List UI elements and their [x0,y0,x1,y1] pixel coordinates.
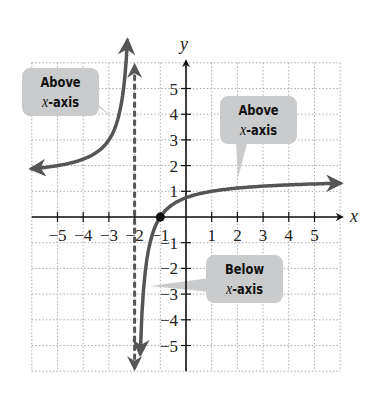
x-intercept-point [156,213,165,222]
callout-left-above-x-axis: Above x-axis [22,68,99,116]
x-tick-label: 4 [285,226,294,245]
x-tick-label: −3 [100,226,118,245]
y-tick-label: −2 [160,259,178,278]
callout-below-x-axis: Below x-axis [206,255,283,303]
x-tick-label: −4 [74,226,93,245]
x-tick-label: 2 [233,226,242,245]
callout-line1: Below [209,259,280,279]
y-tick-label: 5 [170,80,179,99]
x-tick-label: −5 [48,226,66,245]
y-tick-label: 1 [170,182,179,201]
x-tick-label: 3 [259,226,268,245]
x-tick-label: 1 [207,226,216,245]
graph: −5−4−3−2−11234554321−1−2−3−4−5 x y [0,0,377,394]
y-tick-label: −1 [160,234,178,253]
y-tick-label: −3 [160,285,178,304]
y-axis-label: y [178,34,188,54]
y-tick-label: −5 [160,337,178,356]
y-tick-label: 4 [170,105,179,124]
x-axis-label: x [349,206,358,226]
callout-line2: x-axis [223,120,294,140]
y-tick-label: 3 [170,131,179,150]
y-tick-label: −4 [160,311,179,330]
callout-line1: Above [25,72,96,92]
callout-tail-right [236,140,248,178]
callout-line2: x-axis [25,92,96,112]
y-tick-label: 2 [170,157,179,176]
callout-right-above-x-axis: Above x-axis [220,96,297,144]
callout-line1: Above [223,100,294,120]
callout-line2: x-axis [209,279,280,299]
x-tick-label: 5 [310,226,319,245]
